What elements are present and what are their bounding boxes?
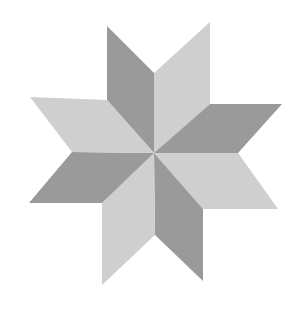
- eight-pointed-star: [0, 0, 304, 320]
- star-figure: [0, 0, 304, 320]
